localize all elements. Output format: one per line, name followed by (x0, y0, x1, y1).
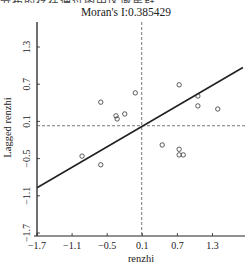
data-point (123, 112, 127, 116)
x-tick-label: −1.1 (63, 240, 81, 251)
y-axis-title: Lagged renzhi (2, 97, 13, 157)
data-point (177, 147, 181, 151)
x-tick-label: 1.3 (206, 240, 219, 251)
x-tick-label: 0.1 (136, 240, 149, 251)
x-tick-label: 0.7 (171, 240, 184, 251)
data-point (160, 143, 164, 147)
data-point (216, 107, 220, 111)
y-tick-label: −1.1 (21, 187, 32, 205)
scatter-plot: −1.7−1.1−0.50.10.71.3−1.7−1.1−0.50.10.71… (0, 0, 252, 275)
data-point (133, 91, 137, 95)
y-tick-label: 0.7 (21, 78, 32, 91)
data-point (196, 104, 200, 108)
data-point (99, 100, 103, 104)
y-tick-label: −1.7 (21, 224, 32, 242)
y-tick-label: 1.3 (21, 41, 32, 54)
x-axis-title: renzhi (128, 253, 154, 264)
regression-line (37, 67, 243, 187)
y-tick-label: −0.5 (21, 150, 32, 168)
data-point (99, 163, 103, 167)
data-point (177, 83, 181, 87)
x-tick-label: −0.5 (98, 240, 116, 251)
data-point (80, 154, 84, 158)
y-tick-label: 0.1 (21, 115, 32, 128)
